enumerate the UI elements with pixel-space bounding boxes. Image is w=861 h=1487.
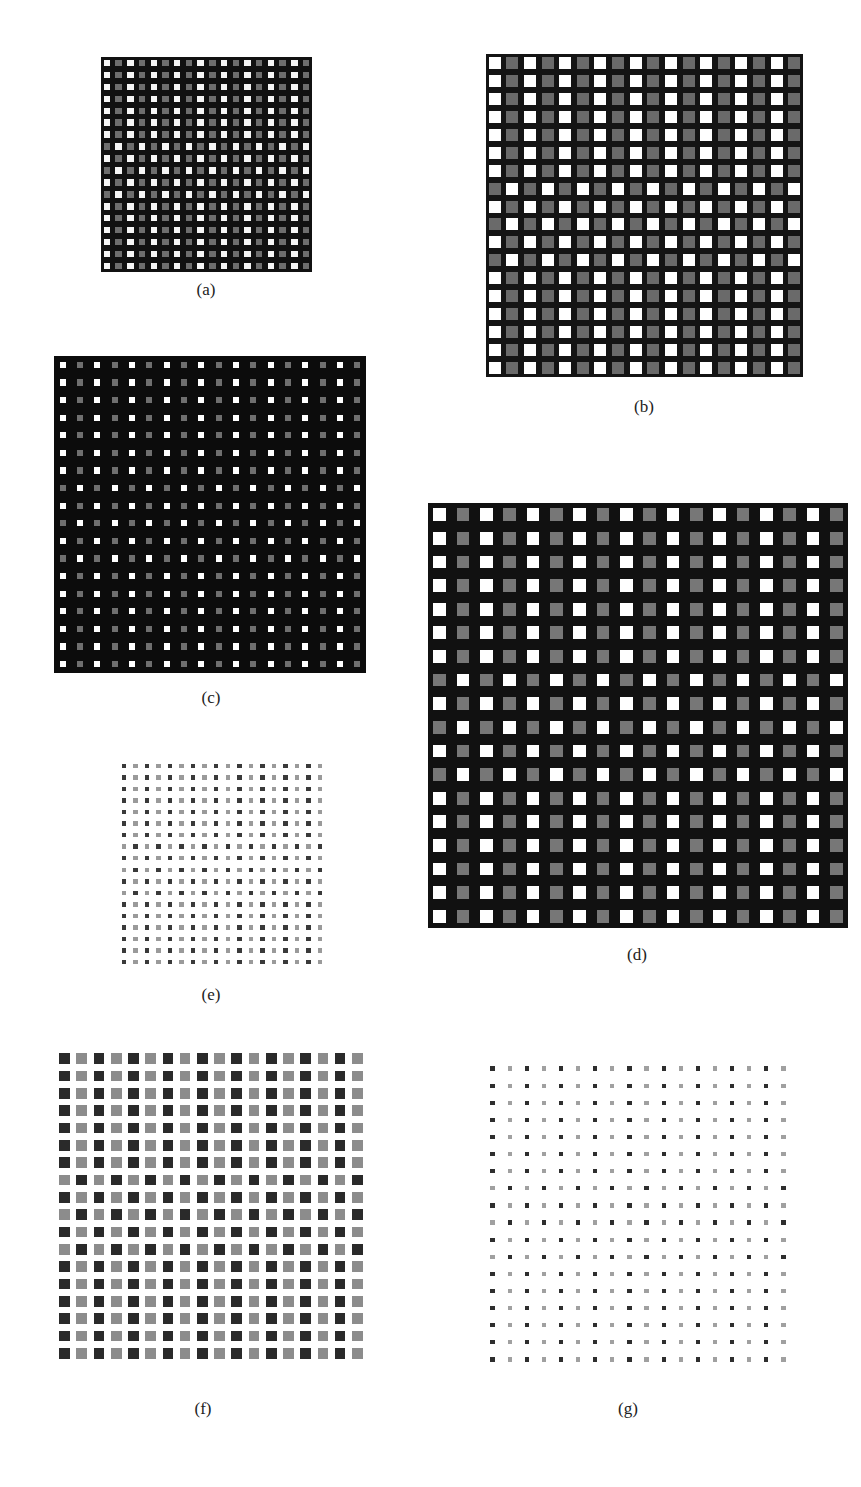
bright-square bbox=[104, 251, 110, 257]
dim-square bbox=[197, 167, 203, 173]
dim-square bbox=[186, 131, 192, 137]
dim-square bbox=[249, 775, 253, 779]
dim-square bbox=[644, 1203, 648, 1207]
bright-square bbox=[771, 344, 783, 356]
dim-square bbox=[209, 251, 215, 257]
dim-square bbox=[181, 626, 187, 632]
bright-square bbox=[197, 179, 203, 185]
dim-square bbox=[503, 839, 516, 852]
bright-square bbox=[145, 787, 149, 791]
bright-square bbox=[266, 1331, 277, 1342]
dim-square bbox=[146, 503, 152, 509]
dim-square bbox=[250, 467, 256, 473]
dim-square bbox=[550, 863, 563, 876]
bright-square bbox=[306, 821, 310, 825]
bright-square bbox=[133, 844, 137, 848]
dim-square bbox=[77, 362, 83, 368]
dim-square bbox=[250, 661, 256, 667]
dim-square bbox=[647, 272, 659, 284]
bright-square bbox=[191, 879, 195, 883]
dim-square bbox=[272, 879, 276, 883]
dim-square bbox=[283, 891, 287, 895]
bright-square bbox=[233, 661, 239, 667]
dim-square bbox=[233, 155, 239, 161]
bright-square bbox=[59, 1157, 70, 1168]
dim-square bbox=[59, 1244, 70, 1255]
dim-square bbox=[283, 1261, 294, 1272]
bright-square bbox=[268, 60, 274, 66]
dim-square bbox=[249, 925, 253, 929]
bright-square bbox=[300, 1261, 311, 1272]
dim-square bbox=[644, 1238, 648, 1242]
bright-square bbox=[214, 775, 218, 779]
bright-square bbox=[480, 603, 493, 616]
bright-square bbox=[667, 839, 680, 852]
bright-square bbox=[221, 131, 227, 137]
dim-square bbox=[272, 833, 276, 837]
dim-square bbox=[283, 1123, 294, 1134]
dim-square bbox=[162, 96, 168, 102]
bright-square bbox=[320, 485, 326, 491]
bright-square bbox=[197, 1348, 208, 1359]
dim-square bbox=[256, 263, 262, 269]
bright-square bbox=[244, 179, 250, 185]
bright-square bbox=[268, 397, 274, 403]
bright-square bbox=[713, 532, 726, 545]
dim-square bbox=[162, 263, 168, 269]
dim-square bbox=[830, 792, 843, 805]
dim-square bbox=[354, 608, 360, 614]
bright-square bbox=[174, 215, 180, 221]
dim-square bbox=[111, 1227, 122, 1238]
bright-square bbox=[713, 1255, 717, 1259]
bright-square bbox=[807, 579, 820, 592]
bright-square bbox=[104, 60, 110, 66]
dim-square bbox=[111, 1296, 122, 1307]
dim-square bbox=[128, 1244, 139, 1255]
dim-square bbox=[226, 798, 230, 802]
bright-square bbox=[59, 1331, 70, 1342]
dim-square bbox=[320, 538, 326, 544]
dim-square bbox=[647, 326, 659, 338]
bright-square bbox=[525, 1152, 529, 1156]
bright-square bbox=[266, 1279, 277, 1290]
bright-square bbox=[104, 84, 110, 90]
dim-square bbox=[266, 1244, 277, 1255]
dim-square bbox=[679, 1238, 683, 1242]
dim-square bbox=[457, 532, 470, 545]
bright-square bbox=[713, 863, 726, 876]
dim-square bbox=[788, 129, 800, 141]
dim-square bbox=[233, 131, 239, 137]
bright-square bbox=[662, 1289, 666, 1293]
dim-square bbox=[597, 745, 610, 758]
bright-square bbox=[525, 1169, 529, 1173]
bright-square bbox=[318, 844, 322, 848]
dim-square bbox=[162, 227, 168, 233]
dim-square bbox=[260, 844, 264, 848]
dim-square bbox=[186, 239, 192, 245]
dim-square bbox=[542, 1118, 546, 1122]
bright-square bbox=[191, 775, 195, 779]
bright-square bbox=[285, 520, 291, 526]
dim-square bbox=[244, 143, 250, 149]
dim-square bbox=[542, 1340, 546, 1344]
bright-square bbox=[111, 1244, 122, 1255]
dim-square bbox=[76, 1071, 87, 1082]
dim-square bbox=[279, 179, 285, 185]
bright-square bbox=[268, 131, 274, 137]
bright-square bbox=[197, 1296, 208, 1307]
bright-square bbox=[764, 1066, 768, 1070]
dim-square bbox=[542, 93, 554, 105]
bright-square bbox=[665, 362, 677, 374]
dim-square bbox=[644, 1135, 648, 1139]
bright-square bbox=[730, 1238, 734, 1242]
bright-square bbox=[268, 179, 274, 185]
dim-square bbox=[295, 925, 299, 929]
dim-square bbox=[713, 1289, 717, 1293]
bright-square bbox=[164, 573, 170, 579]
bright-square bbox=[221, 179, 227, 185]
bright-square bbox=[260, 775, 264, 779]
bright-square bbox=[690, 721, 703, 734]
dim-square bbox=[318, 902, 322, 906]
bright-square bbox=[525, 1118, 529, 1122]
bright-square bbox=[594, 344, 606, 356]
